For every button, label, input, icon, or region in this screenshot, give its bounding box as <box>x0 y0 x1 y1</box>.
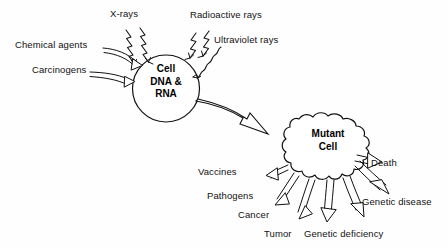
source-cell-line2: DNA & <box>133 76 199 89</box>
mutant-cell-line2: Cell <box>294 141 362 154</box>
label-pathogens: Pathogens <box>207 190 253 201</box>
diagram-canvas: X-rays Radioactive rays Ultraviolet rays… <box>0 0 448 248</box>
label-death: Death <box>371 157 397 168</box>
label-cancer: Cancer <box>238 209 269 220</box>
label-carcinogens: Carcinogens <box>32 64 86 75</box>
mutant-cell-line1: Mutant <box>294 128 362 141</box>
source-cell-line1: Cell <box>133 63 199 76</box>
xrays-arrow <box>126 28 153 66</box>
tumor-arrow <box>321 180 336 222</box>
source-cell-line3: RNA <box>133 88 199 101</box>
source-cell-label: Cell DNA & RNA <box>133 63 199 101</box>
label-tumor: Tumor <box>264 228 292 239</box>
genetic-deficiency-arrow <box>343 176 364 217</box>
label-ultraviolet-rays: Ultraviolet rays <box>214 34 278 45</box>
pathogens-arrow <box>275 173 299 205</box>
carcinogens-arrow <box>90 72 135 87</box>
radioactive-rays-arrow <box>185 31 209 60</box>
mutant-cell-label: Mutant Cell <box>294 128 362 153</box>
label-vaccines: Vaccines <box>198 166 237 177</box>
cancer-arrow <box>298 179 315 219</box>
label-genetic-deficiency: Genetic deficiency <box>304 228 383 239</box>
label-genetic-disease: Genetic disease <box>362 196 432 207</box>
label-x-rays: X-rays <box>110 8 138 19</box>
label-radioactive-rays: Radioactive rays <box>190 9 262 20</box>
label-chemical-agents: Chemical agents <box>15 39 87 50</box>
mutation-arrow <box>196 99 268 134</box>
vaccines-arrow <box>266 165 288 180</box>
